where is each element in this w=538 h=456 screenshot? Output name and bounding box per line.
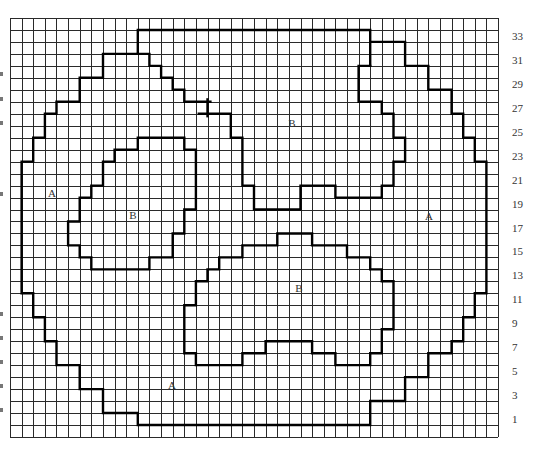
row-number-label: 33 (512, 30, 524, 42)
cropped-text-mark (0, 384, 3, 388)
region-label-a: A (425, 210, 433, 222)
cropped-text-mark (0, 336, 3, 340)
row-number-label: 17 (512, 222, 524, 234)
cropped-text-mark (0, 97, 3, 101)
row-number-label: 7 (512, 341, 518, 353)
cropped-text-mark (0, 192, 3, 196)
row-number-label: 11 (512, 293, 523, 305)
row-number-label: 25 (512, 126, 524, 138)
cropped-text-mark (0, 360, 3, 364)
cropped-text-mark (0, 408, 3, 412)
cropped-text-mark (0, 72, 3, 76)
region-label-b: B (129, 209, 136, 221)
row-number-label: 21 (512, 174, 523, 186)
row-number-label: 29 (512, 78, 524, 90)
row-number-label: 5 (512, 365, 518, 377)
row-number-label: 3 (512, 389, 518, 401)
row-number-label: 13 (512, 269, 524, 281)
row-number-label: 15 (512, 245, 524, 257)
grid-diagram: ABBABA 33312927252321191715131197531 (0, 0, 538, 456)
region-label-a: A (168, 379, 176, 391)
region-label-b: B (295, 282, 302, 294)
row-number-label: 31 (512, 54, 523, 66)
row-number-label: 23 (512, 150, 524, 162)
row-number-label: 27 (512, 102, 524, 114)
region-label-b: B (288, 117, 295, 129)
cropped-text-mark (0, 121, 3, 125)
row-number-label: 1 (512, 413, 518, 425)
region-label-a: A (48, 187, 56, 199)
row-number-label: 19 (512, 198, 524, 210)
cropped-text-mark (0, 312, 3, 316)
row-number-label: 9 (512, 317, 518, 329)
